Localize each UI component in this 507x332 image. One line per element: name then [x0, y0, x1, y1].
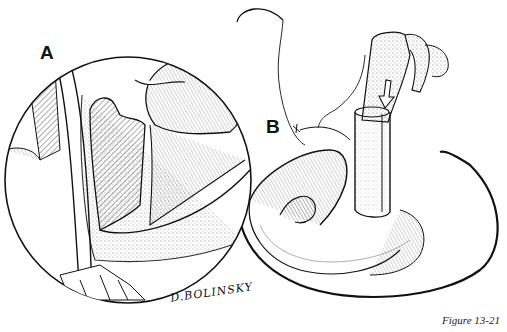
suture-needle — [237, 9, 365, 145]
illustration — [0, 0, 507, 332]
label-b: B — [266, 116, 280, 138]
tissue-flap — [362, 32, 448, 122]
tube-graft — [355, 107, 390, 217]
label-a: A — [40, 42, 54, 64]
inset-circle — [5, 57, 251, 303]
figure-caption: Figure 13-21 — [442, 314, 500, 326]
